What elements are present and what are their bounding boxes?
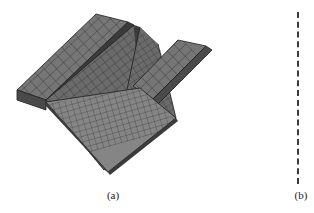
finite-element-mesh-svg: .f-top { fill: #767676; } .f-web { fill:… [0,0,240,186]
panel-divider-dashed-line [297,12,299,184]
panel-b-cropped-figure [300,0,314,186]
figure-root: .f-top { fill: #767676; } .f-web { fill:… [0,0,314,213]
caption-panel-b: (b) [288,190,314,201]
panel-a-mesh-figure: .f-top { fill: #767676; } .f-web { fill:… [0,0,240,186]
caption-panel-a: (a) [0,190,226,201]
